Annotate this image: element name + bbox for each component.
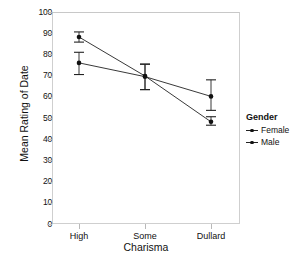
legend-marker-icon	[246, 138, 258, 147]
y-tick-mark	[47, 139, 52, 140]
legend-item-female[interactable]: Female	[246, 125, 303, 136]
y-tick-mark	[47, 12, 52, 13]
y-tick-mark	[47, 97, 52, 98]
legend-item-male[interactable]: Male	[246, 137, 303, 148]
y-tick-mark	[47, 54, 52, 55]
legend-title: Gender	[246, 112, 303, 123]
x-tick-mark	[145, 224, 146, 229]
x-tick-label: Dullard	[197, 232, 226, 241]
legend: Gender Female Male	[246, 112, 303, 149]
x-tick-mark	[211, 224, 212, 229]
y-tick-mark	[47, 118, 52, 119]
plot-area	[52, 12, 240, 224]
x-tick-label: Some	[133, 232, 157, 241]
legend-item-label: Male	[261, 138, 279, 147]
legend-marker-icon	[246, 126, 258, 135]
y-tick-mark	[47, 76, 52, 77]
y-axis-title: Mean Rating of Date	[19, 24, 30, 204]
chart-figure: 100 90 80 70 60 50 40 30 20 10 0 High So…	[0, 0, 303, 256]
y-tick-mark	[47, 203, 52, 204]
legend-item-label: Female	[261, 126, 289, 135]
y-tick-mark	[47, 182, 52, 183]
x-axis-title: Charisma	[52, 242, 240, 253]
x-tick-label: High	[70, 232, 89, 241]
y-tick-mark	[47, 160, 52, 161]
x-tick-mark	[79, 224, 80, 229]
y-tick-mark	[47, 33, 52, 34]
y-tick-mark	[47, 224, 52, 225]
